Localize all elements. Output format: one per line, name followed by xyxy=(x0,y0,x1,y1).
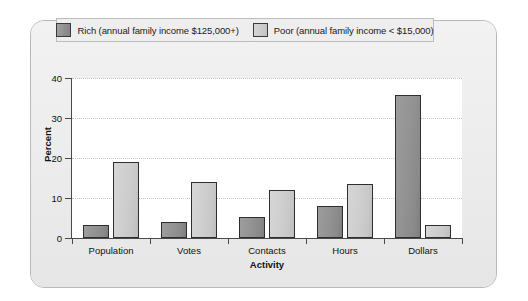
legend-entry-poor[interactable]: Poor (annual family income < $15,000) xyxy=(253,23,434,37)
y-tick-label: 10 xyxy=(36,193,62,204)
bar-dollars-rich xyxy=(395,95,421,238)
bar-dollars-poor xyxy=(425,225,451,238)
x-tick-label-population: Population xyxy=(89,245,134,256)
bar-contacts-rich xyxy=(239,217,265,238)
x-tick-mark xyxy=(384,238,385,244)
poor-swatch-icon xyxy=(253,23,268,37)
x-tick-mark xyxy=(72,238,73,244)
chart-legend: Rich (annual family income $125,000+) Po… xyxy=(56,18,434,42)
x-tick-label-dollars: Dollars xyxy=(408,245,438,256)
x-tick-mark xyxy=(306,238,307,244)
bar-votes-rich xyxy=(161,222,187,238)
x-axis-title: Activity xyxy=(72,259,462,270)
y-axis-title: Percent xyxy=(42,127,53,162)
legend-label-poor: Poor (annual family income < $15,000) xyxy=(274,25,434,36)
bar-contacts-poor xyxy=(269,190,295,238)
x-tick-mark xyxy=(462,238,463,244)
bar-hours-rich xyxy=(317,206,343,238)
x-tick-label-hours: Hours xyxy=(332,245,357,256)
x-axis-line xyxy=(71,238,463,239)
bar-population-poor xyxy=(113,162,139,238)
y-tick-label: 40 xyxy=(36,73,62,84)
y-tick-mark xyxy=(65,198,72,199)
bar-hours-poor xyxy=(347,184,373,238)
x-tick-label-votes: Votes xyxy=(177,245,201,256)
y-tick-mark xyxy=(65,118,72,119)
y-tick-mark xyxy=(65,158,72,159)
bar-population-rich xyxy=(83,225,109,238)
y-tick-mark xyxy=(65,238,72,239)
y-tick-mark xyxy=(65,78,72,79)
x-tick-mark xyxy=(228,238,229,244)
y-tick-label: 30 xyxy=(36,113,62,124)
y-tick-label: 0 xyxy=(36,233,62,244)
rich-swatch-icon xyxy=(56,23,71,37)
gridline xyxy=(72,78,462,79)
bar-votes-poor xyxy=(191,182,217,238)
x-tick-mark xyxy=(150,238,151,244)
legend-label-rich: Rich (annual family income $125,000+) xyxy=(77,25,238,36)
legend-entry-rich[interactable]: Rich (annual family income $125,000+) xyxy=(56,23,238,37)
x-tick-label-contacts: Contacts xyxy=(248,245,286,256)
plot-area xyxy=(72,78,462,238)
figure: Rich (annual family income $125,000+) Po… xyxy=(0,0,528,301)
